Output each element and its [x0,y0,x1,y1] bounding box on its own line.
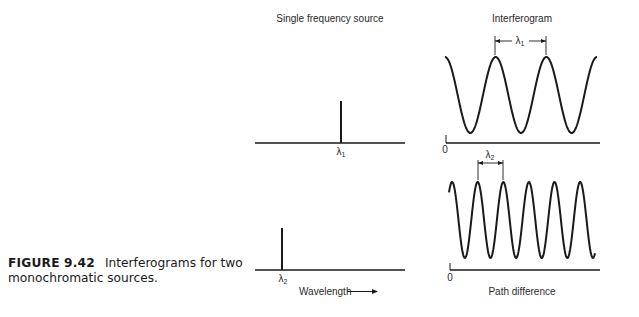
path-difference-axis-label: Path difference [488,286,556,297]
period-2-left-arrowhead-icon [478,161,483,165]
interferogram-panel-2: 0 Path difference λ2 [447,149,600,297]
wavelength-arrow-icon [372,289,378,294]
period-1-left-arrowhead-icon [495,39,500,43]
interferogram-2-curve [449,182,595,258]
period-1-right-arrowhead-icon [541,39,546,43]
wavelength-axis-label: Wavelength [299,286,351,297]
period-2-label: λ2 [486,149,495,161]
interferogram-panel-title: Interferogram [492,13,552,24]
figure-caption: FIGURE 9.42Interferograms for two monoch… [8,256,248,286]
source-panel-title: Single frequency source [276,13,384,24]
source-2-label: λ2 [279,273,288,285]
source-spectrum-1: λ1 [255,101,405,158]
interferogram-1-curve [445,57,597,133]
interferogram-1-period-marker: λ1 [495,35,546,55]
period-2-right-arrowhead-icon [498,161,503,165]
interferogram-2-origin-label: 0 [447,272,453,283]
interferogram-panel-1: 0 λ1 [442,35,600,155]
source-1-label: λ1 [337,146,346,158]
interferogram-2-period-marker: λ2 [478,149,503,180]
figure-number: FIGURE 9.42 [8,256,95,270]
interferogram-1-origin-label: 0 [442,144,448,155]
period-1-label: λ1 [516,35,525,47]
source-spectrum-2: λ2 Wavelength [255,228,405,297]
